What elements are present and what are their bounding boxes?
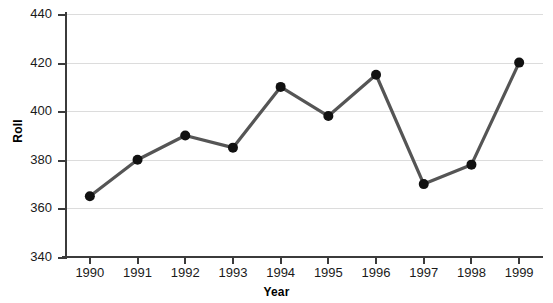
x-tick-mark bbox=[375, 258, 377, 264]
x-tick-mark bbox=[137, 258, 139, 264]
y-tick-mark bbox=[58, 208, 66, 210]
y-tick-mark bbox=[58, 111, 66, 113]
y-tick-mark bbox=[58, 14, 66, 16]
y-tick-label: 380 bbox=[12, 153, 52, 166]
y-tick-mark bbox=[58, 160, 66, 162]
x-tick-label: 1999 bbox=[491, 266, 547, 279]
y-tick-mark bbox=[58, 257, 66, 259]
x-tick-mark bbox=[470, 258, 472, 264]
data-point-marker bbox=[276, 82, 286, 92]
line-chart-figure: Roll Year 340360380400420440199019911992… bbox=[0, 0, 553, 303]
x-tick-mark bbox=[89, 258, 91, 264]
data-point-marker bbox=[419, 179, 429, 189]
y-tick-label: 440 bbox=[12, 7, 52, 20]
y-tick-label: 420 bbox=[12, 56, 52, 69]
data-point-marker bbox=[514, 58, 524, 68]
x-tick-mark bbox=[327, 258, 329, 264]
data-point-marker bbox=[133, 155, 143, 165]
x-tick-mark bbox=[423, 258, 425, 264]
y-tick-mark bbox=[58, 63, 66, 65]
x-tick-mark bbox=[184, 258, 186, 264]
data-point-marker bbox=[180, 131, 190, 141]
x-tick-mark bbox=[232, 258, 234, 264]
series-line-roll bbox=[90, 63, 519, 197]
data-point-marker bbox=[228, 143, 238, 153]
data-point-marker bbox=[371, 70, 381, 80]
y-tick-label: 360 bbox=[12, 201, 52, 214]
y-tick-label: 400 bbox=[12, 104, 52, 117]
x-axis-label: Year bbox=[0, 285, 553, 299]
y-tick-label: 340 bbox=[12, 250, 52, 263]
data-point-marker bbox=[466, 160, 476, 170]
data-point-marker bbox=[85, 191, 95, 201]
x-tick-mark bbox=[280, 258, 282, 264]
data-point-marker bbox=[323, 111, 333, 121]
x-tick-mark bbox=[518, 258, 520, 264]
